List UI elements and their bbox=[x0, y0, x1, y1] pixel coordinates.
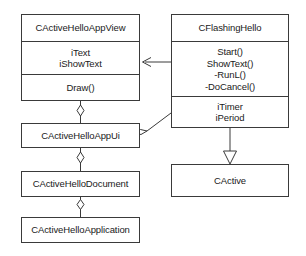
operation-item: ShowText() bbox=[207, 58, 254, 70]
aggregation-diamond-icon bbox=[77, 105, 84, 116]
class-box-cactivehelloapplication[interactable]: CActiveHelloApplication bbox=[21, 217, 140, 243]
aggregation-diamond-icon bbox=[77, 152, 84, 163]
class-name: CActiveHelloDocument bbox=[33, 178, 129, 190]
class-box-cactivehellodocument[interactable]: CActiveHelloDocument bbox=[21, 171, 140, 197]
class-name: CActiveHelloApplication bbox=[31, 224, 130, 236]
class-name: CActiveHelloAppView bbox=[36, 22, 126, 34]
class-name-compartment: CActiveHelloDocument bbox=[22, 172, 139, 196]
operation-item: Start() bbox=[217, 46, 243, 58]
connector-document-to-application bbox=[77, 197, 84, 217]
aggregation-diamond-icon bbox=[77, 200, 84, 210]
attributes-compartment: iTimer iPeriod bbox=[172, 96, 288, 127]
connector-appview-to-appui bbox=[77, 101, 84, 123]
operations-compartment: Start() ShowText() -RunL() -DoCancel() bbox=[172, 41, 288, 96]
operation-item: Draw() bbox=[67, 82, 95, 94]
operations-compartment: Draw() bbox=[22, 74, 139, 100]
class-name-compartment: CActive bbox=[172, 165, 288, 196]
attribute-item: iShowText bbox=[59, 58, 101, 70]
class-name-compartment: CActiveHelloAppView bbox=[22, 15, 139, 41]
class-box-cactive[interactable]: CActive bbox=[171, 164, 289, 197]
class-name: CActiveHelloAppUi bbox=[41, 130, 120, 142]
attribute-item: iText bbox=[71, 47, 90, 59]
uml-class-diagram: CActiveHelloAppView iText iShowText Draw… bbox=[0, 0, 306, 256]
connector-appui-to-document bbox=[77, 148, 84, 171]
class-name: CFlashingHello bbox=[198, 22, 261, 34]
class-name: CActive bbox=[214, 175, 246, 187]
class-box-cactivehelloappui[interactable]: CActiveHelloAppUi bbox=[21, 123, 140, 148]
attribute-item: iTimer bbox=[217, 101, 242, 113]
connector-flashinghello-inherits-active bbox=[224, 128, 237, 164]
attributes-compartment: iText iShowText bbox=[22, 41, 139, 74]
operation-item: -DoCancel() bbox=[205, 81, 255, 93]
attribute-item: iPeriod bbox=[216, 112, 245, 124]
class-box-cflashinghello[interactable]: CFlashingHello Start() ShowText() -RunL(… bbox=[171, 14, 289, 128]
class-name-compartment: CActiveHelloAppUi bbox=[22, 124, 139, 147]
operation-item: -RunL() bbox=[214, 69, 246, 81]
open-arrowhead-icon bbox=[143, 58, 152, 67]
class-name-compartment: CFlashingHello bbox=[172, 15, 288, 41]
class-name-compartment: CActiveHelloApplication bbox=[22, 218, 139, 242]
generalization-triangle-icon bbox=[224, 151, 237, 164]
class-box-cactivehelloappview[interactable]: CActiveHelloAppView iText iShowText Draw… bbox=[21, 14, 140, 101]
